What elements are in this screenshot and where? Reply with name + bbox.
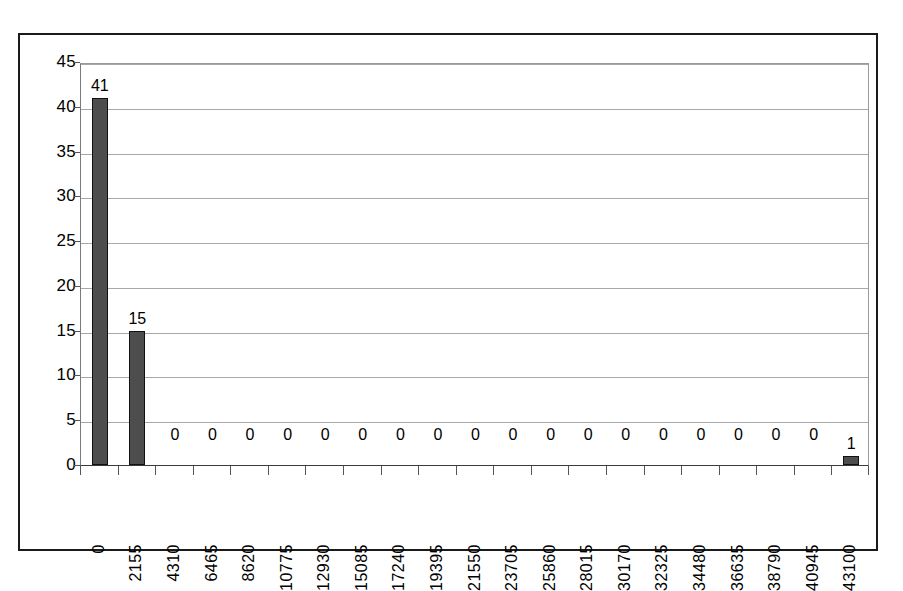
bar-value-label: 0 — [719, 427, 759, 443]
y-axis-tick-label: 35 — [28, 143, 76, 160]
bar-value-label: 0 — [230, 427, 270, 443]
bar-value-label: 0 — [193, 427, 233, 443]
bar-value-label: 41 — [80, 78, 120, 94]
y-axis-tick-label: 45 — [28, 53, 76, 70]
x-axis-tick-label: 21550 — [467, 544, 483, 591]
x-axis-tick-label: 15085 — [354, 544, 370, 591]
x-axis-tick-label: 40945 — [805, 544, 821, 591]
x-axis-tick-label: 38790 — [767, 544, 783, 591]
x-axis-tick-label: 43100 — [842, 544, 858, 591]
x-axis-tick-label: 12930 — [316, 544, 332, 591]
y-axis: 051015202530354045 — [22, 34, 80, 437]
gridline — [81, 154, 868, 155]
bar-value-label: 0 — [268, 427, 308, 443]
y-axis-tick-label: 30 — [28, 187, 76, 204]
y-axis-tick-label: 0 — [28, 456, 76, 473]
bar-value-label: 0 — [606, 427, 646, 443]
gridline — [81, 243, 868, 244]
gridline — [81, 422, 868, 423]
gridline — [81, 64, 868, 65]
bar-value-label: 15 — [117, 311, 157, 327]
gridline — [81, 198, 868, 199]
bar-value-label: 0 — [568, 427, 608, 443]
x-axis-tick-label: 28015 — [579, 544, 595, 591]
x-axis-tick-label: 0 — [91, 544, 107, 553]
bar[interactable] — [129, 331, 145, 465]
bar-value-label: 0 — [643, 427, 683, 443]
x-axis-tick-label: 36635 — [730, 544, 746, 591]
y-axis-tick-label: 10 — [28, 366, 76, 383]
x-axis-tick-label: 19395 — [429, 544, 445, 591]
bar-value-label: 0 — [531, 427, 571, 443]
x-axis-tick-label: 25860 — [542, 544, 558, 591]
plot-area: 41150000000000000000001 — [80, 63, 869, 466]
bar[interactable] — [92, 98, 108, 465]
bar-value-label: 0 — [380, 427, 420, 443]
x-axis-tick-label: 17240 — [391, 544, 407, 591]
bar[interactable] — [843, 456, 859, 465]
chart-frame: 051015202530354045 411500000000000000000… — [18, 33, 878, 551]
x-axis-tick-label: 30170 — [617, 544, 633, 591]
bar-value-label: 0 — [155, 427, 195, 443]
x-axis-tick-label: 32325 — [654, 544, 670, 591]
x-axis-tick-label: 6465 — [204, 544, 220, 582]
x-axis-tick-label: 2155 — [128, 544, 144, 582]
bar-value-label: 0 — [756, 427, 796, 443]
gridline — [81, 288, 868, 289]
bar-value-label: 0 — [681, 427, 721, 443]
y-axis-tick-label: 25 — [28, 232, 76, 249]
bar-value-label: 0 — [794, 427, 834, 443]
gridline — [81, 333, 868, 334]
y-axis-tick-label: 40 — [28, 98, 76, 115]
x-axis-tick-label: 10775 — [279, 544, 295, 591]
y-axis-tick-label: 20 — [28, 277, 76, 294]
bar-value-label: 0 — [456, 427, 496, 443]
y-axis-tick-label: 5 — [28, 411, 76, 428]
x-axis-labels: 0215543106465862010775129301508517240193… — [80, 470, 869, 545]
gridline — [81, 377, 868, 378]
x-axis-tick-label: 4310 — [166, 544, 182, 582]
bar-value-label: 0 — [418, 427, 458, 443]
bar-value-label: 1 — [831, 436, 871, 452]
x-axis-tick-label: 23705 — [504, 544, 520, 591]
y-axis-tick-label: 15 — [28, 322, 76, 339]
bar-value-label: 0 — [305, 427, 345, 443]
x-axis-tick-label: 8620 — [241, 544, 257, 582]
x-axis-tick-label: 34480 — [692, 544, 708, 591]
bar-value-label: 0 — [493, 427, 533, 443]
gridline — [81, 109, 868, 110]
bar-value-label: 0 — [343, 427, 383, 443]
